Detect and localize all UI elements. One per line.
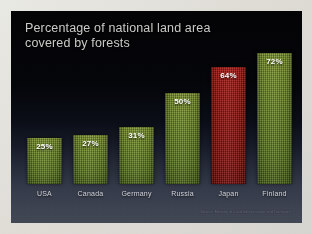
bar-value-japan: 64% [220, 71, 237, 80]
bar-russia: 50% [165, 93, 200, 184]
source-note: Source: Ministry of Land Infrastructure … [201, 210, 290, 214]
bar-value-russia: 50% [174, 97, 191, 106]
bar-value-finland: 72% [266, 57, 283, 66]
category-label-canada: Canada [78, 190, 104, 197]
bar-germany: 31% [119, 127, 154, 184]
slide-title: Percentage of national land area covered… [25, 21, 255, 51]
bar-value-canada: 27% [82, 139, 99, 148]
bar-value-usa: 25% [36, 142, 53, 151]
bar-japan: 64% [211, 67, 246, 184]
bar-value-germany: 31% [128, 131, 145, 140]
bar-slot-japan: 64% Japan [211, 51, 246, 197]
bar-slot-finland: 72% Finland [257, 51, 292, 197]
bar-slot-canada: 27% Canada [73, 51, 108, 197]
bar-slot-germany: 31% Germany [119, 51, 154, 197]
title-line-1: Percentage of national land area [25, 21, 255, 36]
bar-slot-russia: 50% Russia [165, 51, 200, 197]
bar-usa: 25% [27, 138, 62, 184]
bar-slot-usa: 25% USA [27, 51, 62, 197]
category-label-germany: Germany [121, 190, 151, 197]
presentation-slide: Percentage of national land area covered… [11, 11, 302, 223]
category-label-japan: Japan [218, 190, 238, 197]
category-label-finland: Finland [262, 190, 286, 197]
category-label-russia: Russia [171, 190, 194, 197]
photo-frame: Percentage of national land area covered… [0, 0, 312, 234]
bar-chart-plot-area: 25% USA 27% Canada 31% Germany 50% [27, 51, 292, 197]
bar-finland: 72% [257, 53, 292, 184]
category-label-usa: USA [37, 190, 52, 197]
bar-canada: 27% [73, 135, 108, 184]
title-line-2: covered by forests [25, 36, 255, 51]
